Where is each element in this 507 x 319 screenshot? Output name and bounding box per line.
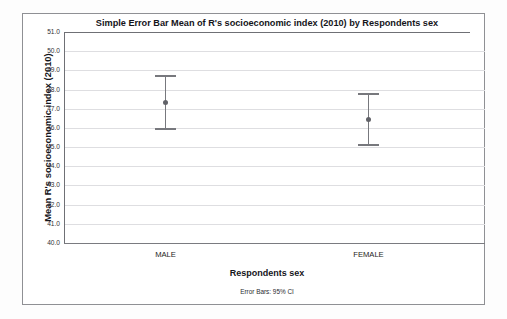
y-tick-label: 41.0 — [14, 220, 60, 227]
y-tick-label: 47.0 — [14, 105, 60, 112]
figure-root: Simple Error Bar Mean of R's socioeconom… — [0, 0, 507, 319]
mean-marker — [163, 100, 168, 105]
y-tick-label: 49.0 — [14, 66, 60, 73]
plot-frame — [64, 32, 470, 244]
y-tick-label: 45.0 — [14, 143, 60, 150]
y-tick-label: 48.0 — [14, 86, 60, 93]
error-bar-upper-cap — [155, 75, 176, 77]
x-tick-label-female: FEMALE — [314, 250, 424, 259]
error-bar-upper-cap — [358, 93, 379, 95]
chart-footnote: Error Bars: 95% CI — [64, 288, 470, 295]
x-tick-label-male: MALE — [111, 250, 221, 259]
y-tick-label: 40.0 — [14, 239, 60, 246]
y-axis-title: Mean R's socioeconomic index (2010) — [42, 33, 53, 243]
y-tick-label: 50.0 — [14, 47, 60, 54]
y-tick-label: 43.0 — [14, 181, 60, 188]
x-axis-line — [64, 243, 485, 244]
y-tick-label: 46.0 — [14, 124, 60, 131]
mean-marker — [366, 117, 371, 122]
y-tick-label: 42.0 — [14, 201, 60, 208]
chart-title: Simple Error Bar Mean of R's socioeconom… — [64, 18, 470, 28]
error-bar-lower-cap — [155, 128, 176, 130]
y-tick-label: 44.0 — [14, 162, 60, 169]
y-tick-label: 51.0 — [14, 28, 60, 35]
error-bar-lower-cap — [358, 144, 379, 146]
x-axis-title: Respondents sex — [64, 268, 470, 278]
